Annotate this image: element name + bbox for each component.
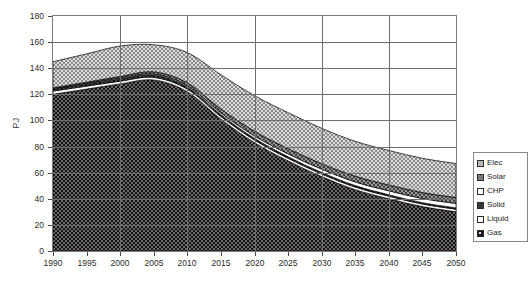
legend-label: CHP [487, 187, 504, 195]
chart-figure: PJ 0204060801001201401601801990199520002… [0, 0, 532, 284]
x-tick-mark [288, 252, 289, 256]
x-tick-mark [389, 252, 390, 256]
legend-swatch-gas-icon [477, 230, 484, 237]
x-tick-mark [456, 252, 457, 256]
legend-item-elec[interactable]: Elec [477, 156, 527, 170]
legend-item-solid[interactable]: Solid [477, 198, 527, 212]
x-tick-mark [322, 252, 323, 256]
legend-swatch-elec-icon [477, 160, 484, 167]
y-tick-label: 80 [14, 143, 44, 151]
legend-label: Liquid [487, 215, 508, 223]
gridline-vertical [389, 16, 390, 251]
y-tick-label: 180 [14, 12, 44, 20]
y-tick-label: 40 [14, 195, 44, 203]
x-tick-label: 2050 [436, 258, 476, 268]
x-tick-mark [187, 252, 188, 256]
gridline-vertical [322, 16, 323, 251]
gridline-vertical [187, 16, 188, 251]
gridline-vertical [120, 16, 121, 251]
x-tick-mark [255, 252, 256, 256]
gridline-vertical [255, 16, 256, 251]
x-tick-mark [355, 252, 356, 256]
plot-area [52, 15, 457, 252]
legend-swatch-solar-icon [477, 174, 484, 181]
x-tick-mark [422, 252, 423, 256]
plot-inner [53, 16, 456, 251]
legend-swatch-solid-icon [477, 202, 484, 209]
legend-label: Solid [487, 201, 505, 209]
y-tick-label: 160 [14, 38, 44, 46]
x-tick-mark [120, 252, 121, 256]
x-tick-mark [221, 252, 222, 256]
legend-label: Solar [487, 173, 506, 181]
y-tick-label: 120 [14, 90, 44, 98]
y-tick-label: 0 [14, 247, 44, 255]
legend-swatch-liquid-icon [477, 216, 484, 223]
legend-item-gas[interactable]: Gas [477, 226, 527, 240]
legend-item-chp[interactable]: CHP [477, 184, 527, 198]
x-tick-mark [53, 252, 54, 256]
legend-label: Gas [487, 229, 502, 237]
x-tick-mark [87, 252, 88, 256]
legend-label: Elec [487, 159, 503, 167]
x-tick-mark [154, 252, 155, 256]
y-tick-label: 60 [14, 169, 44, 177]
legend: ElecSolarCHPSolidLiquidGas [473, 152, 528, 242]
legend-item-solar[interactable]: Solar [477, 170, 527, 184]
legend-swatch-chp-icon [477, 188, 484, 195]
y-tick-label: 100 [14, 116, 44, 124]
y-tick-label: 20 [14, 221, 44, 229]
y-tick-label: 140 [14, 64, 44, 72]
legend-item-liquid[interactable]: Liquid [477, 212, 527, 226]
